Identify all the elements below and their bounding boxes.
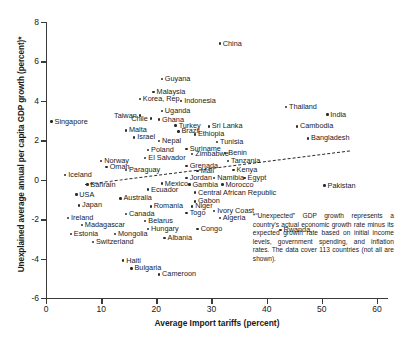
x-tick-label: 0 — [34, 305, 58, 314]
data-point[interactable] — [150, 205, 152, 207]
data-point[interactable] — [191, 153, 193, 155]
x-tick-label: 30 — [199, 305, 223, 314]
data-point[interactable] — [221, 183, 223, 185]
data-point[interactable] — [307, 137, 309, 139]
data-point[interactable] — [67, 217, 69, 219]
data-point[interactable] — [64, 174, 66, 176]
data-point[interactable] — [296, 125, 298, 127]
data-point[interactable] — [177, 130, 179, 132]
data-point[interactable] — [122, 259, 124, 261]
point-label: Thailand — [289, 103, 317, 111]
point-label: Congo — [201, 225, 223, 233]
x-tick-label: 10 — [89, 305, 113, 314]
data-point[interactable] — [50, 120, 52, 122]
data-point[interactable] — [196, 228, 198, 230]
point-label: USA — [79, 191, 94, 199]
point-label: Estonia — [74, 230, 98, 238]
x-tick-label: 20 — [144, 305, 168, 314]
point-label: Uganda — [165, 107, 191, 115]
point-label: Romania — [154, 203, 183, 211]
data-point[interactable] — [125, 129, 127, 131]
data-point[interactable] — [125, 213, 127, 215]
point-label: Nepal — [162, 137, 181, 145]
data-point[interactable] — [100, 160, 102, 162]
point-label: Iceland — [68, 171, 92, 179]
point-label: Guyana — [165, 75, 191, 83]
data-point[interactable] — [92, 241, 94, 243]
point-label: Albania — [168, 234, 192, 242]
y-axis-title: Unexplained average annual per capita GD… — [17, 10, 26, 300]
data-point[interactable] — [70, 233, 72, 235]
data-point[interactable] — [161, 78, 163, 80]
point-label: India — [330, 111, 346, 119]
data-point[interactable] — [185, 165, 187, 167]
data-point[interactable] — [144, 157, 146, 159]
data-point[interactable] — [158, 118, 160, 120]
data-point[interactable] — [158, 140, 160, 142]
data-point[interactable] — [163, 237, 165, 239]
point-label: Bahrain — [90, 181, 115, 189]
data-point[interactable] — [86, 183, 88, 185]
data-point[interactable] — [208, 125, 210, 127]
point-label: Algeria — [223, 214, 246, 222]
point-label: Indonesia — [184, 97, 216, 105]
data-point[interactable] — [185, 148, 187, 150]
data-point[interactable] — [150, 117, 152, 119]
point-label: Brazil — [181, 128, 199, 136]
y-tick-label: -4 — [26, 255, 39, 264]
scatter-chart: -6-4-202468 0102030405060 Unexplained av… — [0, 0, 412, 339]
data-point[interactable] — [188, 183, 190, 185]
data-point[interactable] — [81, 224, 83, 226]
point-label: Tanzania — [231, 157, 260, 165]
data-point[interactable] — [114, 233, 116, 235]
point-label: Bulgaria — [135, 265, 162, 273]
data-point[interactable] — [75, 193, 77, 195]
data-point[interactable] — [219, 217, 221, 219]
data-point[interactable] — [191, 205, 193, 207]
point-label: Chile — [131, 115, 148, 123]
data-point[interactable] — [133, 136, 135, 138]
point-label: Hungary — [151, 225, 179, 233]
x-tick-label: 50 — [310, 305, 334, 314]
data-point[interactable] — [119, 197, 121, 199]
point-label: Cameroon — [162, 271, 196, 279]
data-point[interactable] — [158, 273, 160, 275]
data-point[interactable] — [216, 141, 218, 143]
data-point[interactable] — [323, 184, 325, 186]
data-point[interactable] — [232, 169, 234, 171]
data-point[interactable] — [326, 113, 328, 115]
data-point[interactable] — [243, 177, 245, 179]
y-tick-label: -6 — [26, 294, 39, 303]
data-point[interactable] — [152, 91, 154, 93]
data-point[interactable] — [219, 42, 221, 44]
data-point[interactable] — [130, 267, 132, 269]
data-point[interactable] — [194, 191, 196, 193]
data-point[interactable] — [213, 177, 215, 179]
data-point[interactable] — [78, 204, 80, 206]
point-label: Ecuador — [151, 186, 178, 194]
point-label: Madagascar — [85, 221, 125, 229]
data-point[interactable] — [161, 110, 163, 112]
data-point[interactable] — [147, 188, 149, 190]
y-tick-label: 8 — [26, 18, 39, 27]
data-point[interactable] — [144, 220, 146, 222]
x-tick-label: 40 — [255, 305, 279, 314]
data-point[interactable] — [139, 98, 141, 100]
data-point[interactable] — [180, 100, 182, 102]
data-point[interactable] — [147, 149, 149, 151]
data-point[interactable] — [194, 133, 196, 135]
point-label: Tunisia — [220, 138, 243, 146]
data-point[interactable] — [227, 160, 229, 162]
x-axis-line — [46, 298, 388, 299]
data-point[interactable] — [105, 166, 107, 168]
point-label: Korea, Rep. — [143, 95, 182, 103]
data-point[interactable] — [213, 210, 215, 212]
data-point[interactable] — [185, 212, 187, 214]
y-tick-label: -2 — [26, 215, 39, 224]
point-label: El Salvador — [148, 154, 185, 162]
point-label: Bangladesh — [311, 135, 350, 143]
data-point[interactable] — [174, 124, 176, 126]
point-label: China — [223, 40, 242, 48]
data-point[interactable] — [196, 170, 198, 172]
data-point[interactable] — [285, 106, 287, 108]
